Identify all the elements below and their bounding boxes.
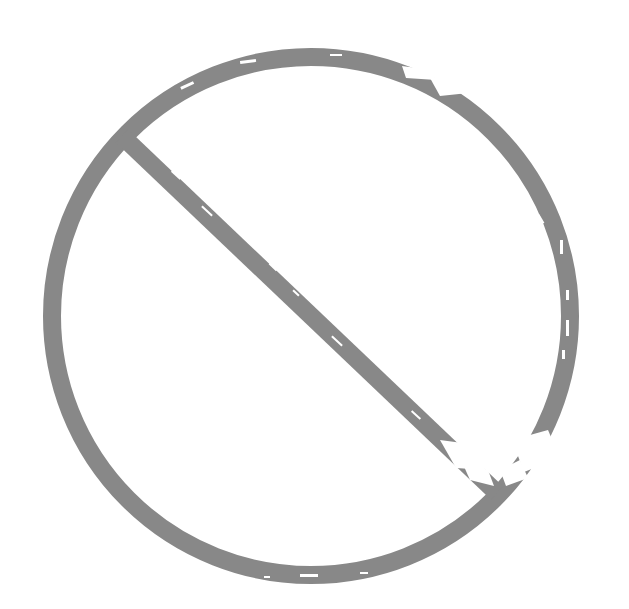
prohibition-sign-canvas (0, 0, 629, 609)
prohibited-icon (0, 0, 629, 609)
prohibition-slash (122, 136, 497, 493)
